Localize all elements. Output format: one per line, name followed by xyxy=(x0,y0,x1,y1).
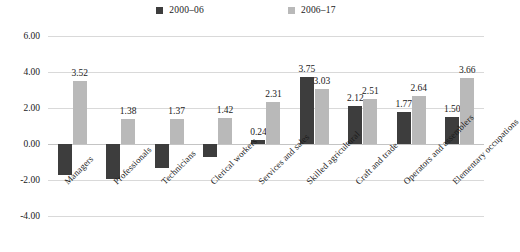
y-axis-tick: -2.00 xyxy=(20,175,40,185)
y-axis-tick: 2.00 xyxy=(23,103,40,113)
bar-series-2006-17[interactable] xyxy=(363,99,377,144)
y-axis-tick: 6.00 xyxy=(23,31,40,41)
bar-series-2006-17[interactable] xyxy=(170,119,184,144)
bar-value-label: 3.75 xyxy=(299,65,316,75)
bar-series-2000-06[interactable] xyxy=(397,112,411,144)
bar-value-label: 1.77 xyxy=(395,100,412,110)
bar-value-label: 1.42 xyxy=(217,106,234,116)
bar-series-2006-17[interactable] xyxy=(315,89,329,144)
bar-value-label: 2.31 xyxy=(265,90,282,100)
bar-value-label: 1.50 xyxy=(444,105,461,115)
bar-value-label: 2.51 xyxy=(362,87,379,97)
legend-swatch-dark xyxy=(156,7,163,14)
bar-value-label: 1.38 xyxy=(120,107,137,117)
category-axis-labels: ManagersProfessionalsTechniciansClerical… xyxy=(48,183,484,251)
legend-label-series-2000-06: 2000–06 xyxy=(169,6,204,16)
bar-series-2006-17[interactable] xyxy=(460,78,474,144)
bar-series-2006-17[interactable] xyxy=(73,81,87,144)
bar-value-label: 0.24 xyxy=(250,128,267,138)
y-axis-tick: -4.00 xyxy=(20,211,40,221)
bar-series-2006-17[interactable] xyxy=(412,96,426,144)
bar-value-label: 1.37 xyxy=(168,107,185,117)
bar-series-2006-17[interactable] xyxy=(121,119,135,144)
y-axis-tick: 0.00 xyxy=(23,139,40,149)
legend-label-series-2006-17: 2006–17 xyxy=(301,6,336,16)
bar-series-2000-06[interactable] xyxy=(58,144,72,175)
chart-legend: 2000–06 2006–17 xyxy=(0,6,492,16)
bar-value-label: 2.64 xyxy=(410,84,427,94)
legend-item-series-2006-17: 2006–17 xyxy=(288,6,336,16)
legend-swatch-light xyxy=(288,7,295,14)
bar-value-label: 3.03 xyxy=(314,77,331,87)
bar-series-2000-06[interactable] xyxy=(155,144,169,168)
bar-series-2006-17[interactable] xyxy=(218,118,232,144)
bar-series-2000-06[interactable] xyxy=(203,144,217,157)
bar-value-label: 3.66 xyxy=(459,66,476,76)
y-axis-tick: 4.00 xyxy=(23,67,40,77)
legend-item-series-2000-06: 2000–06 xyxy=(156,6,204,16)
bar-value-label: 3.52 xyxy=(71,69,88,79)
bar-series-2006-17[interactable] xyxy=(266,102,280,144)
